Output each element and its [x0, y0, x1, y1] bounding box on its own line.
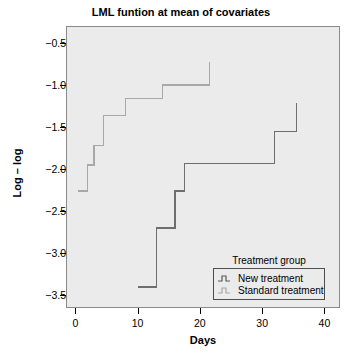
- x-tick-mark: [262, 308, 263, 314]
- legend-title: Treatment group: [213, 255, 325, 266]
- x-tick-label: 0: [55, 317, 95, 329]
- y-tick-mark: [60, 169, 66, 170]
- legend-label-standard-treatment: Standard treatment: [238, 285, 324, 296]
- x-axis-title: Days: [66, 334, 340, 346]
- y-tick-mark: [60, 253, 66, 254]
- x-tick-mark: [75, 308, 76, 314]
- x-tick-label: 30: [242, 317, 282, 329]
- y-tick-mark: [60, 295, 66, 296]
- x-tick-label: 10: [118, 317, 158, 329]
- legend-label-new-treatment: New treatment: [238, 273, 303, 284]
- y-tick-mark: [60, 211, 66, 212]
- lml-chart-figure: LML funtion at mean of covariates −0.5−1…: [0, 0, 362, 360]
- x-tick-label: 40: [304, 317, 344, 329]
- y-axis-title: Log – log: [11, 128, 23, 218]
- y-tick-mark: [60, 85, 66, 86]
- x-tick-label: 20: [180, 317, 220, 329]
- y-tick-mark: [60, 43, 66, 44]
- step-line-light-icon: [217, 285, 235, 295]
- step-line-dark-icon: [217, 273, 235, 283]
- legend-item-new-treatment[interactable]: New treatment: [217, 272, 320, 284]
- legend: Treatment group New treatment Standard t…: [213, 255, 327, 300]
- y-tick-mark: [60, 127, 66, 128]
- legend-item-standard-treatment[interactable]: Standard treatment: [217, 284, 320, 296]
- chart-title: LML funtion at mean of covariates: [0, 6, 362, 18]
- x-tick-mark: [324, 308, 325, 314]
- x-tick-mark: [200, 308, 201, 314]
- legend-box: New treatment Standard treatment: [213, 268, 325, 300]
- series-line-standard-treatment: [78, 62, 209, 191]
- x-tick-mark: [138, 308, 139, 314]
